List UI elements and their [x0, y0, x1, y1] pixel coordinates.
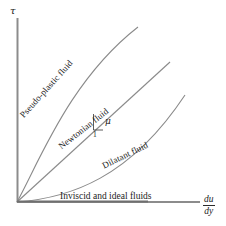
slope-run-label: 1: [93, 131, 97, 139]
rheology-chart: τ du dy Pseudo-plastic fluid Newtonian f…: [0, 0, 226, 226]
y-axis-label: τ: [10, 6, 16, 16]
x-axis-label: du dy: [203, 195, 215, 216]
x-axis-label-numerator: du: [203, 195, 215, 206]
curve-label-inviscid-ideal: Inviscid and ideal fluids: [60, 192, 152, 202]
slope-symbol-label: μ: [105, 117, 111, 126]
x-axis-label-denominator: dy: [203, 206, 215, 217]
curve-pseudo-plastic: [17, 27, 138, 202]
